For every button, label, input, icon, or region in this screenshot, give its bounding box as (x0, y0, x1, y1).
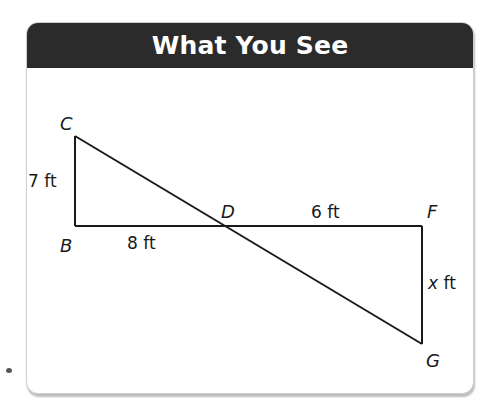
measure-BD: 8 ft (127, 233, 156, 253)
point-label-D: D (221, 201, 235, 222)
similar-triangles-diagram: C B D F G 7 ft 8 ft 6 ft x ft (0, 0, 489, 407)
measure-DF: 6 ft (311, 202, 340, 222)
point-label-F: F (427, 201, 438, 222)
measure-FG: x ft (427, 273, 456, 293)
measure-CB: 7 ft (28, 171, 57, 191)
point-label-G: G (426, 350, 440, 371)
point-label-B: B (60, 235, 72, 256)
measure-FG-unit: ft (438, 273, 456, 293)
page-bullet-mark (6, 368, 12, 373)
point-label-C: C (60, 113, 73, 134)
